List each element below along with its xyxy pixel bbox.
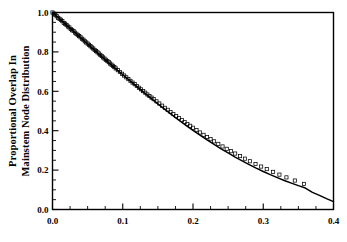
- data-point-marker: [254, 162, 257, 165]
- axes-frame: [53, 13, 334, 210]
- data-point-marker: [302, 182, 305, 185]
- x-tick-label: 0.3: [258, 216, 270, 226]
- data-point-marker: [212, 140, 215, 143]
- y-axis-title-line2: Mainstem Node Distribution: [20, 45, 31, 176]
- data-point-marker: [205, 135, 208, 138]
- data-point-marker: [238, 155, 241, 158]
- data-point-marker: [260, 165, 263, 168]
- data-point-marker: [229, 150, 232, 153]
- data-point-marker: [248, 160, 251, 163]
- plot-frame: [53, 13, 334, 210]
- y-tick-label: 0.2: [37, 165, 49, 175]
- fitted-curve-line: [53, 13, 334, 202]
- data-point-marker: [278, 173, 281, 176]
- data-point-marker: [243, 157, 246, 160]
- data-point-marker: [221, 145, 224, 148]
- y-axis-title-line1: Proportional Overlap In: [7, 55, 18, 167]
- data-point-marker: [271, 170, 274, 173]
- x-tick-label: 0.4: [328, 216, 340, 226]
- x-tick-label: 0.2: [187, 216, 199, 226]
- data-point-marker: [234, 152, 237, 155]
- data-point-marker: [293, 179, 296, 182]
- scatter-plot: 0.00.10.20.30.40.00.20.40.60.81.0 Propor…: [0, 0, 347, 242]
- y-tick-label: 1.0: [37, 8, 49, 18]
- y-tick-label: 0.6: [37, 87, 49, 97]
- data-point-marker: [209, 138, 212, 141]
- x-tick-label: 0.0: [47, 216, 59, 226]
- y-tick-label: 0.8: [37, 47, 49, 57]
- data-point-markers: [51, 11, 306, 186]
- y-tick-label: 0.4: [37, 126, 49, 136]
- x-tick-label: 0.1: [117, 216, 129, 226]
- y-tick-label: 0.0: [37, 205, 49, 215]
- data-point-marker: [265, 168, 268, 171]
- axis-ticks: [53, 13, 334, 210]
- data-point-marker: [225, 147, 228, 150]
- chart-figure: 0.00.10.20.30.40.00.20.40.60.81.0 Propor…: [0, 0, 347, 242]
- data-point-marker: [217, 142, 220, 145]
- data-point-marker: [285, 176, 288, 179]
- y-axis-title: Proportional Overlap In Mainstem Node Di…: [7, 45, 31, 176]
